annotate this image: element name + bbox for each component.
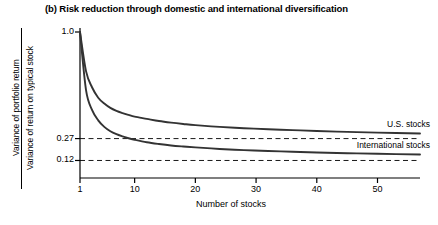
series-curve-1 <box>80 32 420 154</box>
y-axis-label-denominator: Variance of return on typical stock <box>22 26 38 190</box>
chart-title: (b) Risk reduction through domestic and … <box>45 3 348 14</box>
y-tick-label-2: 0.12 <box>44 154 74 164</box>
y-tick-label-1: 0.27 <box>44 133 74 143</box>
series-label-international-stocks: International stocks <box>357 140 430 150</box>
figure-panel: (b) Risk reduction through domestic and … <box>0 0 438 225</box>
y-tick-label-0: 1.0 <box>44 26 74 36</box>
x-axis-label: Number of stocks <box>196 199 266 209</box>
x-tick-label-5: 50 <box>363 184 393 194</box>
x-tick-label-3: 30 <box>241 184 271 194</box>
y-axis-label: Variance of portfolio return Variance of… <box>0 26 36 190</box>
x-tick-label-0: 1 <box>65 184 95 194</box>
x-tick-label-1: 10 <box>120 184 150 194</box>
series-label-us-stocks: U.S. stocks <box>387 119 430 129</box>
series-curve-0 <box>80 32 420 133</box>
x-tick-label-4: 40 <box>302 184 332 194</box>
x-tick-label-2: 20 <box>180 184 210 194</box>
